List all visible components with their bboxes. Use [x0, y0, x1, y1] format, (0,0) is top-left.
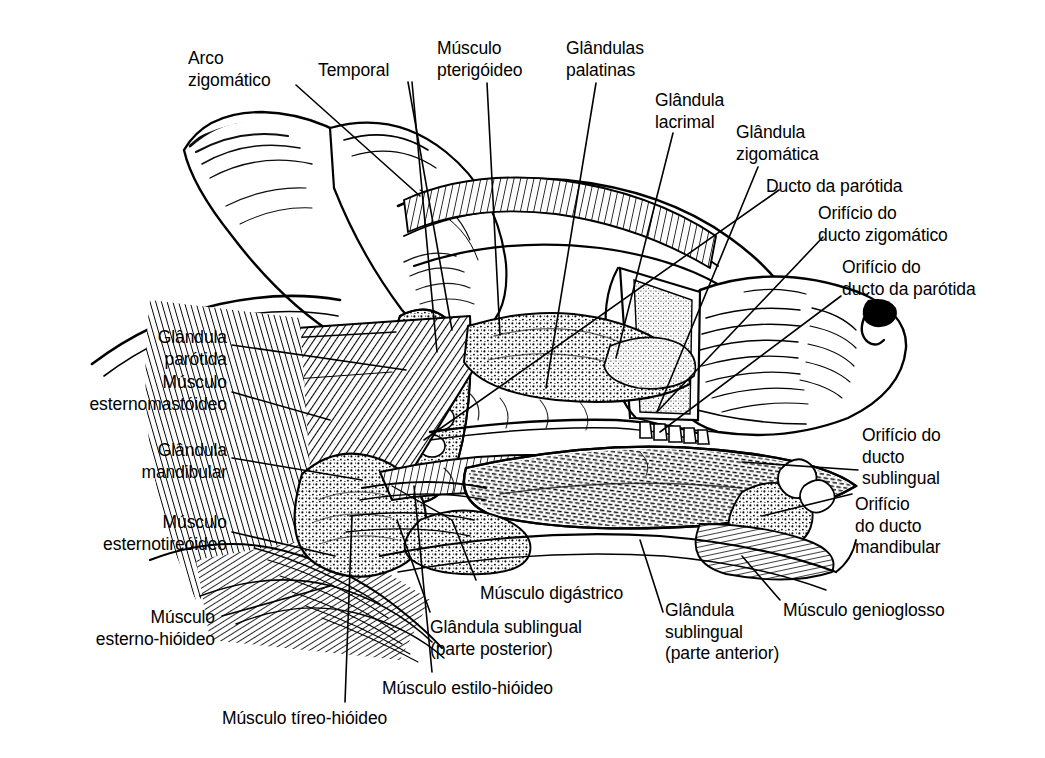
label-orificio-ducto-zigomatico: Orifício do ducto zigomático — [818, 203, 948, 246]
label-glandula-sublingual-post: Glândula sublingual (parte posterior) — [430, 617, 582, 660]
label-musculo-esternomastoideo: Músculo esternomastóideo — [0, 372, 227, 415]
label-glandula-sublingual-ant: Glândula sublingual (parte anterior) — [665, 600, 779, 665]
label-orificio-ducto-mandibular: Orifício do ducto mandibular — [855, 494, 941, 559]
label-orificio-ducto-parotida: Orifício do ducto da parótida — [842, 257, 976, 300]
label-glandula-zigomatica: Glândula zigomática — [736, 122, 819, 165]
label-musculo-estilo-hioideo: Músculo estilo-hióideo — [382, 678, 553, 700]
label-musculo-digastrico: Músculo digástrico — [480, 583, 623, 605]
label-orificio-ducto-sublingual: Orifício do ducto sublingual — [862, 425, 941, 490]
label-glandula-parotida: Glândula parótida — [0, 327, 227, 370]
label-musculo-genioglosso: Músculo genioglosso — [783, 600, 945, 622]
zygomatic-gland — [604, 337, 695, 388]
label-musculo-pterigoideo: Músculo pterigóideo — [437, 38, 523, 81]
label-arco-zigomatico: Arco zigomático — [188, 48, 271, 91]
label-ducto-da-parotida: Ducto da parótida — [766, 176, 902, 198]
label-glandula-mandibular: Glândula mandibular — [0, 440, 227, 483]
label-musculo-esterno-hioideo: Músculo esterno-hióideo — [0, 607, 215, 650]
label-glandula-lacrimal: Glândula lacrimal — [655, 90, 724, 133]
label-musculo-tireo-hioideo: Músculo tíreo-hióideo — [222, 708, 387, 730]
label-musculo-esternotireoideo: Músculo esternotireóideo — [0, 512, 227, 555]
label-temporal: Temporal — [318, 60, 389, 82]
label-glandulas-palatinas: Glândulas palatinas — [566, 38, 644, 81]
